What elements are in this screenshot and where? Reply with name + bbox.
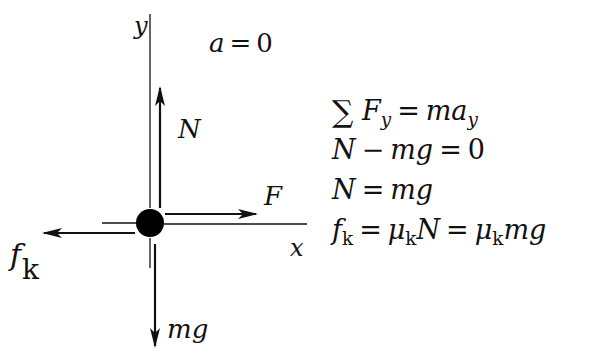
eq4-f-sub: k bbox=[342, 228, 353, 249]
eq2-zero: 0 bbox=[468, 134, 485, 165]
eq1-equals: = bbox=[391, 95, 426, 126]
eq3-mg: mg bbox=[390, 174, 433, 205]
y-axis-label: y bbox=[134, 14, 148, 38]
equation-line-2: N−mg=0 bbox=[332, 130, 546, 170]
equation-line-4: fk=μkN=μkmg bbox=[332, 210, 546, 250]
equation-line-1: ∑ Fy=may bbox=[332, 90, 546, 130]
free-body-diagram: y x a=0 N F fk mg ∑ Fy=may N−mg=0 N=mg f… bbox=[0, 0, 597, 351]
accel-symbol: a bbox=[209, 28, 225, 58]
eq4-mg: mg bbox=[503, 214, 546, 245]
eq4-equals-2: = bbox=[440, 214, 475, 245]
normal-force-label: N bbox=[178, 116, 201, 142]
eq1-a-sub: y bbox=[467, 109, 477, 130]
particle-dot bbox=[136, 209, 164, 237]
applied-force-label: F bbox=[264, 183, 282, 209]
eq2-mg: mg bbox=[390, 134, 433, 165]
eq4-f: f bbox=[332, 214, 342, 245]
eq4-mu-2: μ bbox=[475, 214, 493, 245]
friction-force-label: fk bbox=[10, 240, 38, 270]
eq3-equals: = bbox=[356, 174, 391, 205]
eq2-N: N bbox=[332, 134, 356, 165]
weight-force-label: mg bbox=[167, 316, 208, 342]
eq2-minus: − bbox=[356, 134, 391, 165]
eq4-N: N bbox=[416, 214, 440, 245]
eq4-mu-sub-2: k bbox=[492, 228, 503, 249]
accel-equals: = bbox=[225, 28, 257, 58]
eq4-mu-1: μ bbox=[388, 214, 406, 245]
eq2-equals: = bbox=[433, 134, 468, 165]
equation-line-3: N=mg bbox=[332, 170, 546, 210]
friction-symbol: f bbox=[10, 237, 21, 272]
eq1-F-sub: y bbox=[381, 109, 391, 130]
eq4-mu-sub-1: k bbox=[405, 228, 416, 249]
eq1-F: F bbox=[362, 95, 381, 126]
eq3-N: N bbox=[332, 174, 356, 205]
eq1-ma: ma bbox=[426, 95, 468, 126]
equations-block: ∑ Fy=may N−mg=0 N=mg fk=μkN=μkmg bbox=[332, 90, 546, 250]
accel-value: 0 bbox=[256, 28, 273, 58]
eq4-equals-1: = bbox=[353, 214, 388, 245]
friction-subscript: k bbox=[22, 253, 39, 286]
sum-symbol: ∑ bbox=[332, 94, 353, 129]
x-axis-label: x bbox=[290, 236, 304, 260]
acceleration-label: a=0 bbox=[209, 30, 273, 56]
